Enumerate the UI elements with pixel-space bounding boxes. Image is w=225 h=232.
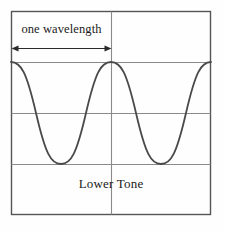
waveform-canvas: [0, 0, 225, 232]
waveform-figure: one wavelength Lower Tone: [0, 0, 225, 232]
